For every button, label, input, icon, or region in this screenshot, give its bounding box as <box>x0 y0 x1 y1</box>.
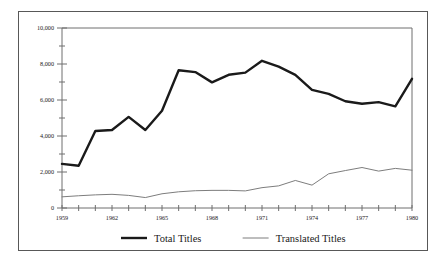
x-tick-label: 1980 <box>406 214 418 221</box>
x-tick-label: 1968 <box>206 214 218 221</box>
y-tick-label: 2,000 <box>40 168 54 175</box>
y-tick-label: 0 <box>51 204 54 211</box>
y-tick-label: 8,000 <box>40 60 54 67</box>
y-tick-label: 10,000 <box>37 24 54 31</box>
y-tick-label: 6,000 <box>40 96 54 103</box>
x-tick-label: 1962 <box>106 214 118 221</box>
x-tick-label: 1959 <box>56 214 68 221</box>
series-line-total-titles <box>62 61 412 166</box>
legend-label-total-titles: Total Titles <box>154 233 201 244</box>
x-tick-label: 1977 <box>356 214 368 221</box>
legend-label-translated-titles: Translated Titles <box>276 233 346 244</box>
figure: 02,0004,0006,0008,00010,0001959196219651… <box>0 0 447 269</box>
x-tick-label: 1974 <box>306 214 318 221</box>
x-tick-label: 1965 <box>156 214 168 221</box>
series-line-translated-titles <box>62 168 412 198</box>
x-tick-label: 1971 <box>256 214 268 221</box>
line-chart: 02,0004,0006,0008,00010,0001959196219651… <box>0 0 447 269</box>
y-tick-label: 4,000 <box>40 132 54 139</box>
